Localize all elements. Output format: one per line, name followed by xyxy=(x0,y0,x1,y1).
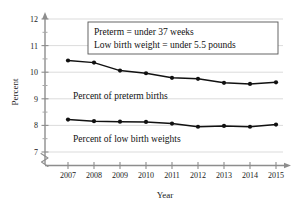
data-point xyxy=(196,125,200,129)
series-label-preterm: Percent of preterm births xyxy=(73,91,168,101)
note-line-2: Low birth weight = under 5.5 pounds xyxy=(94,40,236,50)
data-point xyxy=(92,61,96,65)
y-tick-label-7: 7 xyxy=(34,148,38,157)
data-point xyxy=(92,119,96,123)
x-tick-label-2010: 2010 xyxy=(138,171,154,180)
line-chart: 12 11 10 9 8 7 2007 2008 2009 2010 2011 … xyxy=(0,0,300,209)
data-point xyxy=(144,71,148,75)
data-point xyxy=(222,124,226,128)
x-tick-label-2014: 2014 xyxy=(242,171,258,180)
x-tick-label-2009: 2009 xyxy=(112,171,128,180)
data-point xyxy=(274,123,278,127)
data-point xyxy=(248,125,252,129)
data-point xyxy=(170,121,174,125)
x-tick-label-2015: 2015 xyxy=(268,171,284,180)
x-tick-label-2007: 2007 xyxy=(60,171,76,180)
chart-container: 12 11 10 9 8 7 2007 2008 2009 2010 2011 … xyxy=(0,0,300,209)
data-point xyxy=(248,82,252,86)
data-point xyxy=(274,80,278,84)
y-tick-label-10: 10 xyxy=(30,68,38,77)
data-point xyxy=(196,77,200,81)
y-tick-label-12: 12 xyxy=(30,15,38,24)
data-point xyxy=(170,76,174,80)
data-point xyxy=(66,58,70,62)
data-point xyxy=(118,120,122,124)
axis-break-icon xyxy=(41,154,48,167)
y-tick-labels: 12 11 10 9 8 7 xyxy=(30,15,38,157)
x-tick-label-2011: 2011 xyxy=(164,171,180,180)
y-axis xyxy=(42,12,48,164)
note-line-1: Preterm = under 37 weeks xyxy=(94,27,194,37)
data-point xyxy=(222,81,226,85)
series-label-low-birth-weight: Percent of low birth weights xyxy=(73,134,181,144)
x-axis-title: Year xyxy=(157,190,174,200)
x-axis xyxy=(45,163,291,169)
x-tick-label-2013: 2013 xyxy=(216,171,232,180)
y-axis-title: Percent xyxy=(10,78,20,105)
data-point xyxy=(144,120,148,124)
y-tick-label-9: 9 xyxy=(34,95,38,104)
x-axis-arrow xyxy=(284,163,291,169)
x-tick-label-2012: 2012 xyxy=(190,171,206,180)
y-axis-arrow xyxy=(42,12,48,19)
y-tick-label-11: 11 xyxy=(30,42,38,51)
x-tick-label-2008: 2008 xyxy=(86,171,102,180)
definition-note-box: Preterm = under 37 weeks Low birth weigh… xyxy=(88,22,278,54)
y-tick-label-8: 8 xyxy=(34,121,38,130)
x-tick-labels: 2007 2008 2009 2010 2011 2012 2013 2014 … xyxy=(60,171,284,180)
series-low-birth-weights xyxy=(66,117,278,128)
data-point xyxy=(66,117,70,121)
data-point xyxy=(118,69,122,73)
